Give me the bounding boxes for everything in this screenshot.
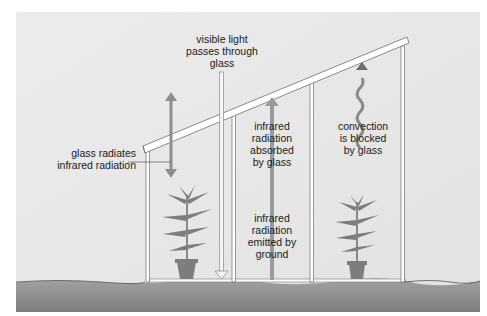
greenhouse-floor xyxy=(147,279,405,282)
greenhouse-diagram: visible light passes through glass glass… xyxy=(0,0,487,316)
infrared-emitted-label: infrared radiation emitted by ground xyxy=(239,212,305,260)
convection-label: convection is blocked by glass xyxy=(328,120,398,156)
infrared-absorbed-label: infrared radiation absorbed by glass xyxy=(241,120,303,168)
glass-radiates-label: glass radiates infrared radiation xyxy=(36,147,136,171)
visible-light-label: visible light passes through glass xyxy=(180,33,264,69)
ground xyxy=(16,278,480,312)
